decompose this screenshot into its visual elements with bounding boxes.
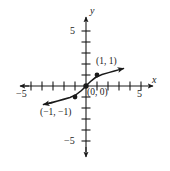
annotation-point-1-1: (1, 1)	[96, 57, 117, 67]
y-tick-label-neg5: −5	[64, 136, 75, 146]
y-axis-label: y	[90, 6, 94, 16]
coordinate-plane-svg	[0, 0, 170, 171]
x-axis-label: x	[152, 75, 156, 85]
point-marker-neg1-neg1	[73, 95, 78, 100]
y-tick-label-5: 5	[70, 26, 75, 36]
annotation-point-0-0: (0, 0)	[87, 88, 108, 98]
curve-left-arrow	[44, 103, 53, 105]
x-tick-label-5: 5	[137, 89, 142, 99]
graph-figure: y x −5 5 5 −5 (1, 1) (0, 0) (−1, −1)	[0, 0, 170, 171]
point-marker-1-1	[95, 73, 100, 78]
x-tick-label-neg5: −5	[16, 89, 27, 99]
annotation-point-neg1-neg1: (−1, −1)	[40, 108, 71, 118]
